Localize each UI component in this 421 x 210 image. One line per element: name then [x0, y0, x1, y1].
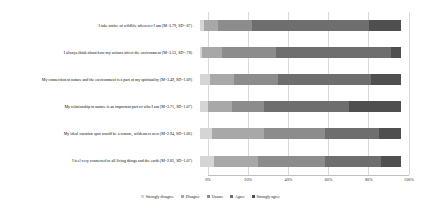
legend-item[interactable]: Disagree [181, 194, 200, 199]
bar-segment-unsure [218, 20, 252, 31]
bar-segment-agree [252, 20, 369, 31]
chart-row: My relationship to nature is an importan… [0, 93, 421, 120]
category-label: I always think about how my actions affe… [0, 50, 200, 55]
stacked-bar [200, 101, 401, 112]
legend-label: Strongly agree [257, 194, 280, 199]
bar-segment-disagree [208, 101, 232, 112]
legend-swatch-icon [141, 195, 144, 198]
bar-segment-disagree [202, 47, 222, 58]
legend-swatch-icon [230, 195, 233, 198]
x-tick-label: 60% [325, 177, 333, 182]
chart-row: My connection to nature and the environm… [0, 66, 421, 93]
bar-segment-unsure [234, 74, 278, 85]
stacked-bar [200, 128, 401, 139]
chart-legend: Strongly disagreeDisagreeUnsureAgreeStro… [0, 194, 421, 199]
category-label: My relationship to nature is an importan… [0, 104, 200, 109]
bar-segment-agree [325, 156, 381, 167]
bar-segment-agree [276, 47, 391, 58]
category-label: I take notice of wildlife wherever I am … [0, 23, 200, 28]
bar-segment-disagree [212, 128, 264, 139]
bar-segment-unsure [222, 47, 276, 58]
bar-segment-disagree [210, 74, 234, 85]
bar-segment-agree [278, 74, 370, 85]
legend-label: Unsure [212, 194, 224, 199]
legend-label: Strongly disagree [146, 194, 174, 199]
x-tick-label: 100% [404, 177, 414, 182]
legend-label: Disagree [186, 194, 200, 199]
bar-segment-agree [264, 101, 348, 112]
chart-plot-rows: I take notice of wildlife wherever I am … [0, 12, 421, 175]
bar-segment-strongly-disagree [200, 128, 212, 139]
x-axis-tick-labels: 0%20%40%60%80%100% [208, 177, 409, 187]
stacked-bar [200, 156, 401, 167]
legend-item[interactable]: Agree [230, 194, 245, 199]
category-label: My connection to nature and the environm… [0, 77, 200, 82]
chart-row: I take notice of wildlife wherever I am … [0, 12, 421, 39]
bar-segment-unsure [264, 128, 324, 139]
likert-stacked-bar-chart: I take notice of wildlife wherever I am … [0, 0, 421, 210]
x-tick-label: 0% [205, 177, 211, 182]
category-label: My ideal vacation spot would be a remote… [0, 131, 200, 136]
stacked-bar [200, 20, 401, 31]
bar-segment-strongly-disagree [200, 101, 208, 112]
bar-segment-strongly-agree [379, 128, 401, 139]
legend-item[interactable]: Strongly disagree [141, 194, 174, 199]
x-tick-label: 40% [285, 177, 293, 182]
bar-segment-strongly-agree [381, 156, 401, 167]
bar-segment-strongly-disagree [200, 74, 210, 85]
legend-item[interactable]: Strongly agree [252, 194, 280, 199]
bar-segment-disagree [204, 20, 218, 31]
x-axis-line [208, 175, 409, 176]
bar-segment-strongly-agree [391, 47, 401, 58]
bar-segment-strongly-disagree [200, 156, 214, 167]
stacked-bar [200, 47, 401, 58]
x-tick-label: 20% [244, 177, 252, 182]
chart-row: I always think about how my actions affe… [0, 39, 421, 66]
stacked-bar [200, 74, 401, 85]
legend-swatch-icon [181, 195, 184, 198]
x-tick-label: 80% [365, 177, 373, 182]
bar-segment-disagree [214, 156, 258, 167]
chart-row: I feel very connected to all living thin… [0, 147, 421, 174]
bar-segment-unsure [232, 101, 264, 112]
category-label: I feel very connected to all living thin… [0, 158, 200, 163]
legend-item[interactable]: Unsure [207, 194, 223, 199]
bar-segment-strongly-agree [371, 74, 401, 85]
bar-segment-strongly-agree [369, 20, 401, 31]
legend-label: Agree [235, 194, 245, 199]
legend-swatch-icon [252, 195, 255, 198]
bar-segment-agree [325, 128, 379, 139]
legend-swatch-icon [207, 195, 210, 198]
bar-segment-strongly-agree [349, 101, 401, 112]
bar-segment-unsure [258, 156, 324, 167]
chart-row: My ideal vacation spot would be a remote… [0, 120, 421, 147]
